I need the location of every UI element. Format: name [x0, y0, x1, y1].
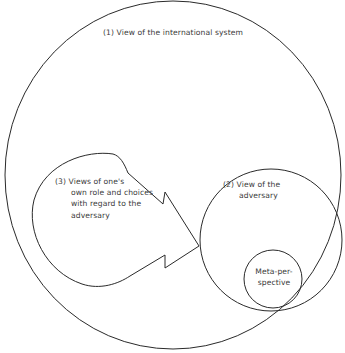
meta-perspective-line-2: spective: [253, 277, 295, 288]
meta-perspective-label: Meta-per- spective: [253, 266, 295, 288]
own-role-text-1: Views of one's: [69, 177, 125, 186]
adversary-label: (2) View of the adversary: [223, 179, 280, 201]
adversary-number: (2): [223, 180, 234, 189]
own-role-label-line-3: with regard to the: [55, 198, 153, 209]
diagram-canvas: [0, 0, 345, 353]
own-role-label: (3) Views of one's own role and choices …: [55, 176, 153, 221]
adversary-label-line-1: (2) View of the: [223, 179, 280, 190]
own-role-label-line-1: (3) Views of one's: [55, 176, 153, 187]
own-role-number: (3): [55, 177, 66, 186]
international-system-circle: [5, 1, 341, 349]
meta-perspective-line-1: Meta-per-: [253, 266, 295, 277]
international-system-label: (1) View of the international system: [103, 27, 243, 38]
international-system-text: View of the international system: [117, 28, 243, 37]
adversary-label-line-2: adversary: [223, 190, 280, 201]
own-role-label-line-4: adversary: [55, 210, 153, 221]
international-system-number: (1): [103, 28, 114, 37]
adversary-text-1: View of the: [237, 180, 281, 189]
own-role-label-line-2: own role and choices: [55, 187, 153, 198]
